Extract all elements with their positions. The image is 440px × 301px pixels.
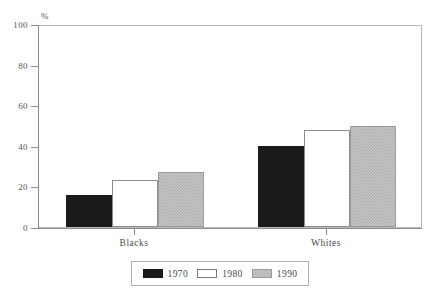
y-axis-tick [31,25,38,26]
legend: 1970 1980 1990 [131,261,309,286]
bar-chart: % 100 80 60 40 20 0 Blacks Whites [0,0,440,301]
x-axis-tick [134,229,135,235]
bar-whites-1990 [350,126,396,227]
x-axis-category-label-whites: Whites [311,238,341,248]
y-axis-tick [31,147,38,148]
y-axis-tick [31,66,38,67]
legend-swatch-icon-1970 [143,269,163,278]
legend-item-1980: 1980 [197,269,243,279]
bar-whites-1980 [304,130,350,227]
legend-swatch-icon-1990 [252,269,272,278]
y-axis-unit-label: % [41,12,49,21]
y-axis-line [38,25,39,229]
bar-blacks-1970 [66,195,112,227]
bar-blacks-1980 [112,180,158,227]
y-axis-tick-label-0: 0 [0,224,28,233]
x-axis-line [38,228,422,229]
legend-label-1990: 1990 [277,269,298,279]
bar-whites-1970 [258,146,304,227]
y-axis-tick [31,228,38,229]
legend-label-1970: 1970 [168,269,189,279]
y-axis-tick-label-20: 20 [0,183,28,192]
legend-swatch-icon-1980 [197,269,217,278]
y-axis-tick-label-100: 100 [0,21,28,30]
y-axis-tick [31,106,38,107]
legend-item-1990: 1990 [252,269,298,279]
y-axis-tick-label-60: 60 [0,102,28,111]
y-axis-tick-label-40: 40 [0,143,28,152]
y-axis-tick-label-80: 80 [0,62,28,71]
x-axis-tick [326,229,327,235]
x-axis-category-label-blacks: Blacks [120,238,149,248]
bar-blacks-1990 [158,172,204,227]
legend-item-1970: 1970 [143,269,189,279]
plot-area-frame [38,25,422,228]
plot-area [39,26,421,227]
legend-label-1980: 1980 [222,269,243,279]
y-axis-tick [31,187,38,188]
